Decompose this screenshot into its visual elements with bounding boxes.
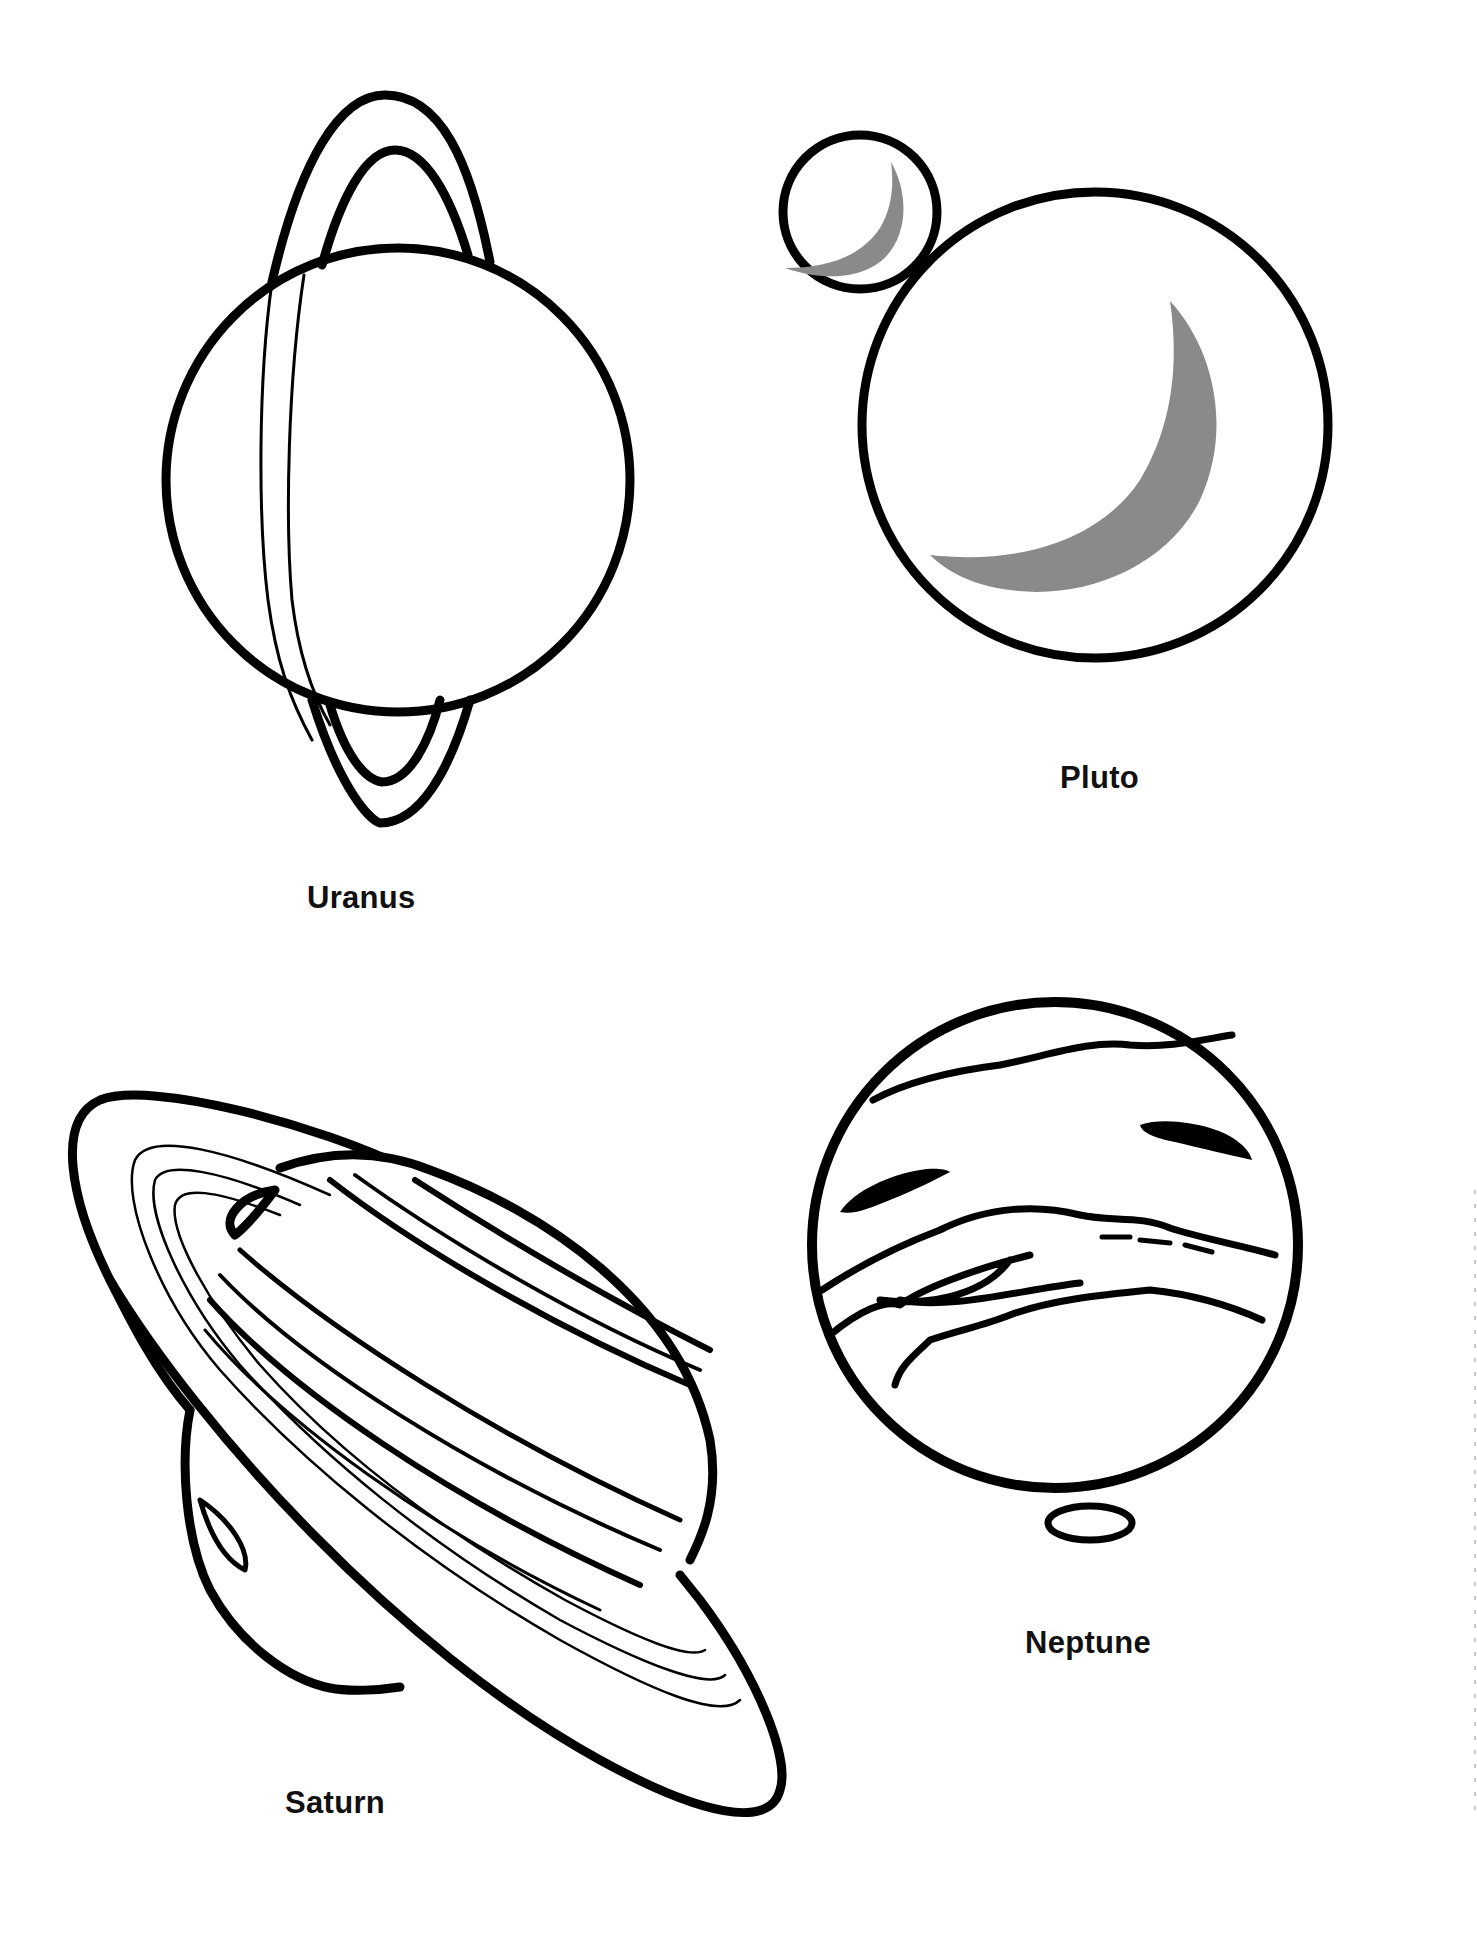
pluto-label: Pluto xyxy=(1060,760,1139,796)
pluto-body xyxy=(862,192,1328,658)
uranus-drawing xyxy=(166,95,630,823)
saturn-body xyxy=(185,1155,713,1690)
neptune-oval xyxy=(1048,1506,1132,1540)
neptune-label: Neptune xyxy=(1025,1625,1151,1661)
saturn-label: Saturn xyxy=(285,1785,385,1821)
pluto-drawing xyxy=(783,135,1328,658)
saturn-drawing xyxy=(72,1095,781,1812)
neptune-drawing xyxy=(812,1002,1298,1540)
uranus-label: Uranus xyxy=(307,880,416,916)
planets-illustration xyxy=(0,0,1477,1941)
uranus-body xyxy=(166,248,630,712)
coloring-page: Uranus Pluto Saturn Neptune xyxy=(0,0,1477,1941)
saturn-ring-gap xyxy=(230,1190,275,1235)
page-perforation xyxy=(1474,1190,1476,1810)
